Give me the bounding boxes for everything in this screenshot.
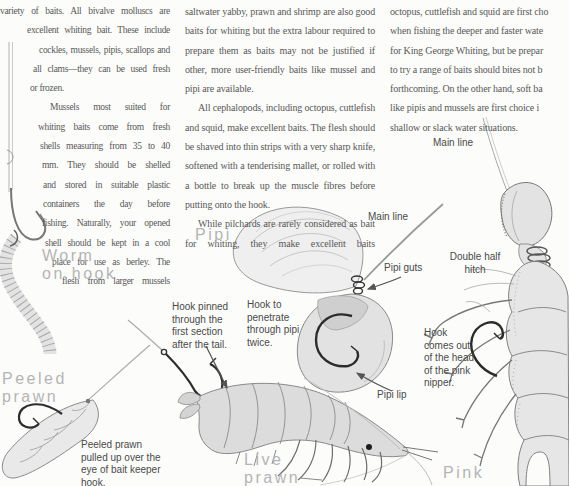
text-line: mm. They should be shelled [0, 156, 170, 175]
text-line: twice. [247, 337, 299, 350]
text-line: hitch [444, 264, 506, 277]
live-prawn-heading: Liveprawn [244, 451, 300, 486]
paragraph: All cephalopods, including octopus, cutt… [185, 98, 375, 214]
text-column-2: saltwater yabby, prawn and shrimp are al… [185, 2, 375, 253]
text-column-3: octopus, cuttlefish and squid are first … [390, 2, 569, 137]
text-line: excellent whiting bait. These include [0, 21, 170, 40]
text-line: variety of baits. All bivalve molluscs a… [0, 2, 170, 21]
text-line: fishing. Naturally, your opened [0, 214, 170, 233]
double-half-hitch-label: Double halfhitch [444, 251, 506, 276]
hook-penetrate-caption: Hook topenetratethrough pipitwice. [247, 299, 299, 349]
text-line: forthcoming. On the other hand, soft ba [390, 79, 569, 98]
text-line: through pipi [247, 324, 299, 337]
text-line: for King George Whiting, but be prepar [390, 41, 569, 60]
text-line: Hook [424, 327, 474, 340]
text-line: to try a range of baits should bites not… [390, 60, 569, 79]
text-line: and stored in suitable plastic [0, 176, 170, 195]
text-line: of the pink [424, 365, 474, 378]
text-line: Worm [42, 247, 116, 265]
text-line: nipper. [424, 377, 474, 390]
text-line: all clams—they can be used fresh [0, 60, 170, 79]
hook-pinned-caption: Hook pinnedthrough thefirst sectionafter… [172, 301, 228, 351]
text-line: of the head [424, 352, 474, 365]
text-line: pulled up over the [81, 452, 161, 465]
text-line: Mussels most suited for [0, 98, 170, 117]
text-line: shells measuring from 35 to 40 [0, 137, 170, 156]
pipi-main-line-label: Main line [368, 211, 408, 224]
text-line: prawn [2, 388, 67, 406]
text-line: first section [172, 326, 228, 339]
text-line: Peeled prawn [81, 439, 161, 452]
book-page: variety of baits. All bivalve molluscs a… [0, 0, 569, 486]
text-line: cockles, mussels, pipis, scallops and [0, 41, 170, 60]
text-line: hook. [81, 477, 161, 486]
paragraph: saltwater yabby, prawn and shrimp are al… [185, 2, 375, 98]
text-line: Hook to [247, 299, 299, 312]
pipi-guts-label: Pipi guts [384, 262, 422, 275]
hook-comes-out-caption: Hookcomes outof the headof the pinknippe… [424, 327, 474, 390]
text-line: Live [244, 451, 300, 469]
text-line: comes out [424, 340, 474, 353]
text-line: Peeled [2, 370, 67, 388]
text-line: containers the day before [0, 195, 170, 214]
text-line: Double half [444, 251, 506, 264]
peeled-prawn-caption: Peeled prawnpulled up over theeye of bai… [81, 439, 161, 486]
pipi-guts-arrow [368, 277, 401, 289]
text-line: Hook pinned [172, 301, 228, 314]
worm-on-hook-heading: Wormon hook [42, 247, 116, 283]
text-line: when fishing the deeper and faster wate [390, 21, 569, 40]
text-line: octopus, cuttlefish and squid are first … [390, 2, 569, 21]
text-line: after the tail. [172, 339, 228, 352]
pipi-heading: Pipi [195, 226, 232, 244]
text-line: on hook [42, 265, 116, 283]
pink-nipper-heading: Pink [443, 464, 484, 482]
peeled-prawn-heading: Peeledprawn [2, 370, 67, 406]
text-line: prawn [244, 469, 300, 486]
pink-nipper-illustration [424, 117, 569, 486]
pipi-lip-label: Pipi lip [377, 389, 406, 402]
text-line: whiting baits come from fresh [0, 118, 170, 137]
text-line: penetrate [247, 312, 299, 325]
text-line: eye of bait keeper [81, 464, 161, 477]
hook-pinned-arrow [206, 346, 227, 388]
text-line: shallow or slack water situations. [390, 118, 569, 137]
text-line: like pipis and mussels are first choice … [390, 98, 569, 117]
nipper-main-line-label: Main line [433, 137, 473, 150]
text-line: through the [172, 314, 228, 327]
text-line: or frozen. [0, 79, 170, 98]
